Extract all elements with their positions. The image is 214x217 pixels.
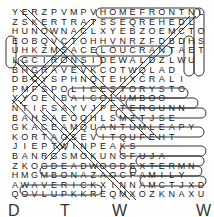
grid-row: AWAVERICKXINNAMCTJXD bbox=[10, 181, 206, 191]
grid-row: XYOEIBAICOLUMBOO bbox=[10, 94, 206, 104]
grid-row: HMGMBONAZAOCFAMILY bbox=[10, 171, 206, 181]
grid-row: QOVLUPKKREQMXOZKNAXU bbox=[10, 190, 206, 200]
grid-cell: E bbox=[98, 190, 108, 200]
word-list-item: T bbox=[60, 202, 70, 217]
grid-cell: X bbox=[128, 190, 138, 200]
grid-row: JIEPTWINPEAKS bbox=[10, 142, 206, 152]
grid-cell: V bbox=[30, 190, 40, 200]
grid-cell: K bbox=[79, 190, 89, 200]
grid-cell: O bbox=[20, 190, 30, 200]
grid-row: EOBQVCTOHHVNRZFDBDHS bbox=[10, 37, 206, 47]
grid-row: NTIFSAYVJPETERGUNN bbox=[10, 104, 206, 114]
grid-cell: Q bbox=[108, 190, 118, 200]
grid-cell: X bbox=[186, 190, 196, 200]
grid-row: ZSKERTRATSSEQREHEDL bbox=[10, 18, 206, 28]
grid-cell: K bbox=[69, 190, 79, 200]
grid-cell: T bbox=[196, 46, 206, 56]
grid-cell: K bbox=[157, 190, 167, 200]
grid-cell: L bbox=[196, 8, 206, 18]
word-list-item: W bbox=[112, 202, 127, 217]
grid-cell: M bbox=[118, 190, 128, 200]
grid-cell: L bbox=[39, 190, 49, 200]
grid-cell: T bbox=[167, 133, 177, 143]
grid-row: BANRGSMOKUNGFUJA bbox=[10, 152, 206, 162]
grid-row: YERZPVMPVHOMEFRONTNL bbox=[10, 8, 206, 18]
grid-row: ZKOGDEADWOODEXTERMN bbox=[10, 162, 206, 172]
grid-cell: Q bbox=[10, 190, 20, 200]
grid-row: LGCIRONSIDEWALDZLWU bbox=[10, 56, 206, 66]
grid-cell: Y bbox=[186, 123, 196, 133]
grid-cell: U bbox=[186, 56, 196, 66]
grid-cell: A bbox=[177, 190, 187, 200]
grid-cell: T bbox=[167, 85, 177, 95]
grid-row: KORTAGSEVITQUFEHT bbox=[10, 133, 206, 143]
grid-row: HUNOWNACLXYEBZOEMCTO bbox=[10, 27, 206, 37]
grid-row: BAHSAEOQHLSMZTJSE bbox=[10, 114, 206, 124]
grid-cell: Z bbox=[147, 190, 157, 200]
grid-cell: P bbox=[59, 190, 69, 200]
grid-cell: W bbox=[177, 56, 187, 66]
grid-cell: O bbox=[177, 85, 187, 95]
word-list-item: D bbox=[8, 202, 20, 217]
grid-row: DBCYSPHNQTEHXCRALI bbox=[10, 75, 206, 85]
word-search-grid: YERZPVMPVHOMEFRONTNLZSKERTRATSSEQREHEDLH… bbox=[10, 8, 206, 200]
grid-cell: H bbox=[157, 133, 167, 143]
grid-cell: E bbox=[147, 133, 157, 143]
word-list-item: W bbox=[196, 202, 211, 217]
grid-cell: U bbox=[196, 190, 206, 200]
grid-cell: N bbox=[177, 104, 187, 114]
grid-cell: F bbox=[137, 133, 147, 143]
word-list-partial: D T W W bbox=[0, 202, 214, 217]
grid-row: GKACEAMQUANTUMLEAPY bbox=[10, 123, 206, 133]
grid-cell: N bbox=[186, 162, 196, 172]
grid-cell: R bbox=[88, 190, 98, 200]
grid-row: PMFSPOLICESTORYSTO bbox=[10, 85, 206, 95]
grid-cell: U bbox=[49, 190, 59, 200]
grid-row: BHGRAVEVKCOTWQLAD bbox=[10, 66, 206, 76]
grid-cell: N bbox=[167, 190, 177, 200]
grid-cell: P bbox=[177, 123, 187, 133]
grid-cell: O bbox=[137, 190, 147, 200]
